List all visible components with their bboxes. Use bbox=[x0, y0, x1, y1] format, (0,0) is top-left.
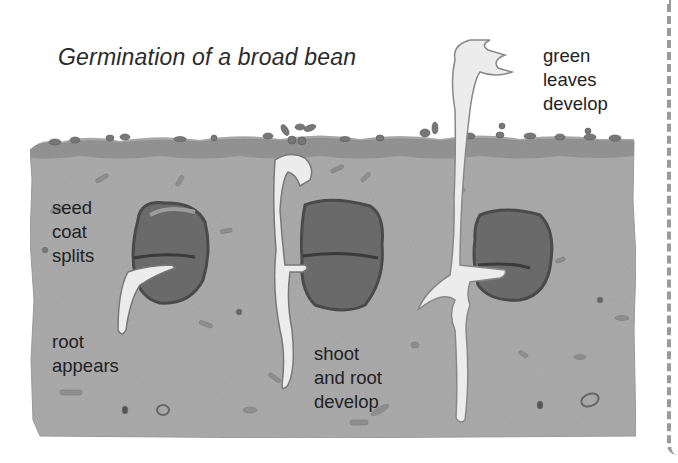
label-line: leaves bbox=[543, 68, 608, 92]
label-green-leaves-develop: green leaves develop bbox=[543, 44, 608, 116]
label-line: coat bbox=[52, 220, 94, 244]
page-dashed-border bbox=[667, 0, 677, 455]
label-line: green bbox=[543, 44, 608, 68]
label-shoot-and-root-develop: shoot and root develop bbox=[314, 342, 382, 414]
label-line: root bbox=[52, 330, 119, 354]
label-line: appears bbox=[52, 354, 119, 378]
label-line: develop bbox=[314, 390, 382, 414]
label-line: develop bbox=[543, 92, 608, 116]
label-line: splits bbox=[52, 244, 94, 268]
label-line: shoot bbox=[314, 342, 382, 366]
label-root-appears: root appears bbox=[52, 330, 119, 378]
label-seed-coat-splits: seed coat splits bbox=[52, 196, 94, 268]
label-line: and root bbox=[314, 366, 382, 390]
label-line: seed bbox=[52, 196, 94, 220]
